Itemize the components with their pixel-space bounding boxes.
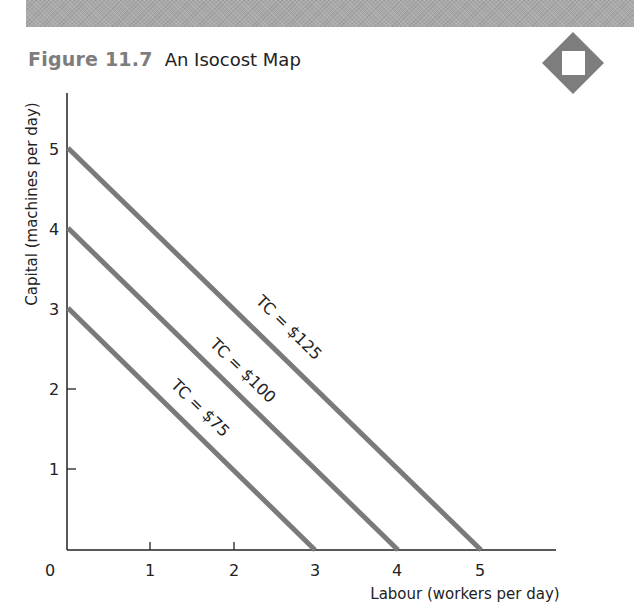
y-axis-title: Capital (machines per day) [23,102,41,305]
y-tick-labels: 1 2 3 4 5 [49,140,59,479]
x-axis-title: Labour (workers per day) [370,585,559,603]
isocost-lines [68,148,481,550]
label-tc-125: TC = $125 [251,291,325,364]
label-tc-75: TC = $75 [166,375,233,441]
svg-text:5: 5 [49,140,59,159]
svg-text:4: 4 [392,561,402,580]
isocost-line-125 [68,148,481,550]
svg-text:1: 1 [145,561,155,580]
y-ticks [67,389,76,469]
svg-text:2: 2 [49,380,59,399]
x-ticks [150,542,234,550]
isocost-line-75 [68,308,315,550]
svg-text:3: 3 [49,300,59,319]
svg-text:0: 0 [45,561,55,580]
svg-text:4: 4 [49,220,59,239]
x-tick-labels: 0 1 2 3 4 5 [45,561,485,580]
svg-text:3: 3 [310,561,320,580]
svg-text:1: 1 [49,460,59,479]
svg-text:2: 2 [229,561,239,580]
isocost-line-100 [68,228,398,550]
isocost-chart: 1 2 3 4 5 0 1 2 3 4 5 Labour (workers pe… [0,0,643,616]
svg-text:5: 5 [475,561,485,580]
